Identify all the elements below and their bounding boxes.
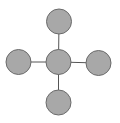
- node-center: [46, 50, 71, 75]
- nodes-group: [6, 9, 111, 115]
- node-left: [6, 50, 31, 75]
- star-graph-diagram: [0, 0, 120, 123]
- node-right: [86, 51, 111, 76]
- node-bottom: [46, 90, 71, 115]
- node-top: [47, 9, 72, 34]
